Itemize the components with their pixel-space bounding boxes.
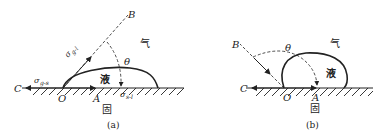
label-sigma-gs: σ g-s xyxy=(34,76,49,87)
label-o: O xyxy=(283,92,291,103)
solid-hatch xyxy=(32,88,184,95)
label-a: A xyxy=(311,92,319,103)
theta-arc xyxy=(253,51,317,85)
label-gas: 气 xyxy=(140,37,150,49)
arrow-sigma-gl xyxy=(254,58,270,74)
label-gas: 气 xyxy=(330,37,340,49)
label-b: B xyxy=(127,9,135,20)
figure-b: B θ 气 液 C O A 固 (b) xyxy=(231,37,373,130)
label-solid: 固 xyxy=(310,103,320,114)
label-liquid: 液 xyxy=(100,73,110,85)
label-o: O xyxy=(58,93,66,104)
label-theta: θ xyxy=(124,56,130,67)
svg-text:g-s: g-s xyxy=(40,79,49,87)
droplet-outline xyxy=(63,68,158,88)
label-sigma-gl: σ g-l xyxy=(63,43,80,61)
caption-b: (b) xyxy=(306,120,319,130)
arrow-sigma-gl xyxy=(63,57,91,88)
label-liquid: 液 xyxy=(326,67,336,79)
contact-angle-diagram: B 气 θ 液 C O A 固 (a) σ g-l σ g-s σ s-l B … xyxy=(0,0,382,139)
label-solid: 固 xyxy=(102,104,112,115)
label-a: A xyxy=(92,93,100,104)
label-c: C xyxy=(240,83,248,94)
label-theta: θ xyxy=(285,42,291,53)
label-b: B xyxy=(231,39,239,50)
label-c: C xyxy=(14,83,22,94)
caption-a: (a) xyxy=(107,120,119,130)
svg-text:s-l: s-l xyxy=(126,93,133,100)
droplet-outline xyxy=(282,53,347,88)
figure-a: B 气 θ 液 C O A 固 (a) σ g-l σ g-s σ s-l xyxy=(14,9,184,130)
